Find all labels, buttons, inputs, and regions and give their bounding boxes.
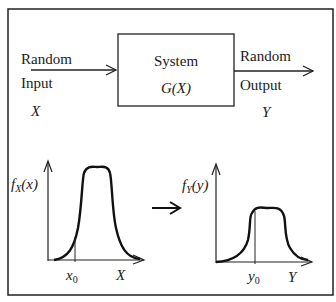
output-label-line2: Output — [240, 77, 283, 93]
output-symbol: Y — [262, 104, 272, 120]
input-pdf-x-axis-label: X — [115, 267, 126, 283]
system-block-diagram: Random Input X System G(X) Random Output… — [21, 34, 313, 120]
output-pdf-x-axis-label: Y — [288, 269, 298, 285]
input-symbol: X — [30, 103, 41, 119]
system-function: G(X) — [161, 80, 191, 97]
output-pdf-plot: fY(y) y0 Y — [182, 164, 312, 286]
transform-arrow — [152, 202, 180, 214]
y0-label: y0 — [246, 268, 260, 286]
input-label-line2: Input — [21, 75, 53, 91]
input-pdf-curve — [54, 167, 140, 260]
random-system-diagram: Random Input X System G(X) Random Output… — [0, 0, 336, 302]
input-pdf-label: fX(x) — [11, 176, 38, 194]
output-pdf-label: fY(y) — [182, 177, 208, 195]
input-pdf-plot: fX(x) x0 X — [11, 161, 144, 285]
output-pdf-curve — [216, 207, 308, 262]
x0-label: x0 — [65, 267, 78, 285]
input-label-line1: Random — [21, 51, 72, 67]
output-label-line1: Random — [240, 48, 291, 64]
system-title: System — [154, 53, 199, 69]
